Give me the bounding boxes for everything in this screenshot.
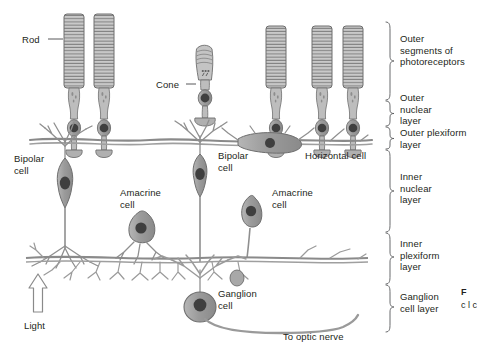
label-to-optic-nerve: To optic nerve (283, 331, 344, 343)
layer-braces (386, 22, 394, 332)
rod-cell-4 (314, 88, 330, 158)
label-amacrine-right: Amacrine cell (272, 187, 313, 210)
brace-outer-plexiform (386, 127, 394, 149)
label-amacrine-left: Amacrine cell (120, 187, 161, 210)
brace-ganglion-layer (386, 285, 394, 332)
layer-label-outer-nuclear: Outer nuclear layer (400, 92, 432, 127)
rod-outer-segment-2 (94, 14, 114, 88)
rod-cell-5 (345, 88, 361, 158)
rod-outer-segment-5 (343, 26, 363, 88)
label-light: Light (24, 320, 45, 332)
brace-inner-plexiform (386, 233, 394, 284)
bipolar-cell-right (193, 154, 207, 262)
layer-label-ganglion-layer: Ganglion cell layer (400, 291, 439, 314)
figure-caption-clipped: F c l c (461, 286, 477, 312)
brace-inner-nuclear (386, 150, 394, 232)
label-horizontal-cell: Horizontal cell (305, 150, 366, 162)
retina-diagram-figure: Rod Cone Bipolar cell Bipolar cell Horiz… (0, 0, 477, 354)
ipl-interneuron-soma (230, 270, 244, 286)
amacrine-cell-left (116, 211, 164, 264)
layer-label-inner-plexiform: Inner plexiform layer (400, 238, 439, 273)
cone-cell-1 (195, 45, 216, 126)
caption-body: c l c (461, 299, 477, 312)
brace-outer-segments (386, 22, 394, 100)
light-arrow-icon (29, 274, 47, 312)
layer-label-outer-plexiform: Outer plexiform layer (400, 127, 466, 150)
layer-label-outer-segments: Outer segments of photoreceptors (400, 33, 465, 68)
caption-lead: F (461, 286, 477, 299)
bipolar-left-dendrites (40, 122, 92, 160)
inner-plexiform-layer (26, 243, 368, 286)
label-bipolar-left: Bipolar cell (14, 153, 44, 176)
rod-outer-segment-4 (312, 26, 332, 88)
photoreceptor-outer-segments (64, 14, 363, 88)
label-ganglion-cell: Ganglion cell (218, 288, 257, 311)
rod-outer-segment-1 (64, 14, 84, 88)
label-bipolar-right: Bipolar cell (218, 150, 248, 173)
layer-label-inner-nuclear: Inner nuclear layer (400, 171, 432, 206)
label-rod: Rod (22, 34, 40, 46)
label-cone: Cone (156, 79, 179, 91)
rod-outer-segment-3 (266, 26, 286, 88)
rod-cell-2 (96, 88, 112, 158)
amacrine-cell-right (242, 195, 262, 258)
brace-outer-nuclear (386, 101, 394, 126)
